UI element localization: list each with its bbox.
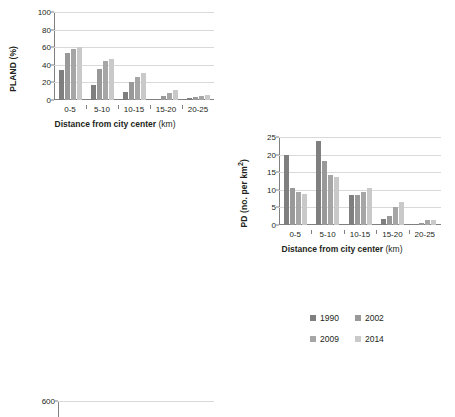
y-tick-label: 5 [272, 203, 279, 212]
x-tick-mark [150, 105, 151, 109]
bar-group [344, 137, 376, 225]
x-tick-mark [344, 230, 345, 234]
y-tick-label: 100 [38, 8, 54, 17]
bar [71, 49, 76, 100]
bar [103, 61, 108, 100]
bar [425, 220, 430, 225]
legend-label: 2002 [365, 313, 384, 323]
bar [205, 95, 210, 100]
bar [413, 224, 418, 225]
bar-group [54, 12, 86, 100]
bar [296, 192, 301, 225]
chart-enn-ylabel: ENN (mean) (m) [4, 395, 24, 417]
bar-group [182, 12, 214, 100]
bar [399, 202, 404, 225]
y-tick-label: 15 [267, 168, 279, 177]
bar [59, 70, 64, 100]
chart-enn-bars [58, 401, 214, 417]
bar [173, 90, 178, 100]
chart-enn: ENN (mean) (m) 0150300450600 0-55-1010-1… [4, 395, 226, 417]
chart-enn-plot-area: 0150300450600 [58, 401, 214, 417]
bar [187, 98, 192, 100]
bar [381, 219, 386, 225]
x-tick-mark [182, 105, 183, 109]
x-tick-mark [86, 105, 87, 109]
legend-swatch-icon [310, 315, 316, 321]
bar [161, 96, 166, 100]
bar-group [279, 137, 311, 225]
legend-item-2014: 2014 [355, 334, 384, 344]
bar [141, 73, 146, 100]
bar-group [311, 137, 343, 225]
bar-group [183, 401, 214, 417]
x-tick-label: 15-20 [150, 105, 182, 114]
bar-group [58, 401, 89, 417]
chart-pland-plot-area: 020406080100 [54, 12, 214, 100]
bar-group [118, 12, 150, 100]
x-tick-mark [118, 105, 119, 109]
bar [387, 216, 392, 225]
bar-group [120, 401, 151, 417]
x-tick-label: 20-25 [409, 230, 441, 239]
chart-pland-xlabel: Distance from city center (km) [4, 119, 226, 129]
figure-panel-grid: PLAND (%) 020406080100 0-55-1010-1515-20… [0, 0, 455, 417]
bar [97, 69, 102, 100]
x-tick-mark [409, 230, 410, 234]
chart-pd-bars [279, 137, 441, 225]
bar [393, 207, 398, 225]
x-tick-label: 20-25 [182, 105, 214, 114]
bar [284, 155, 289, 225]
x-tick-mark [311, 230, 312, 234]
legend-label: 2009 [320, 334, 339, 344]
bar [361, 192, 366, 225]
bar [129, 82, 134, 100]
bar [334, 177, 339, 225]
bar [328, 175, 333, 225]
chart-pd-xticklabels: 0-55-1010-1515-2020-25 [279, 230, 441, 239]
x-tick-label: 10-15 [344, 230, 376, 239]
bar [167, 93, 172, 100]
bar [155, 99, 160, 100]
chart-pd-ylabel-text: PD (no. per km2) [237, 159, 250, 227]
y-tick-label: 0 [272, 221, 279, 230]
bar-group [152, 401, 183, 417]
legend-swatch-icon [355, 336, 361, 342]
y-tick-label: 80 [42, 25, 54, 34]
bar-group [409, 137, 441, 225]
bar [135, 77, 140, 100]
x-tick-label: 5-10 [86, 105, 118, 114]
y-tick-label: 40 [42, 60, 54, 69]
legend: 1990200220092014 [310, 313, 384, 344]
bar [109, 59, 114, 100]
bar [367, 188, 372, 225]
bar [193, 97, 198, 100]
chart-pland: PLAND (%) 020406080100 0-55-1010-1515-20… [4, 6, 226, 131]
bar [431, 220, 436, 225]
chart-pd-xlabel: Distance from city center (km) [233, 244, 451, 254]
bar-group [86, 12, 118, 100]
y-tick-label: 600 [42, 397, 58, 406]
chart-pd-plot-area: 0510152025 [279, 137, 441, 225]
bar [322, 161, 327, 225]
bar [316, 141, 321, 225]
bar-group [150, 12, 182, 100]
bar [302, 194, 307, 225]
bar [123, 92, 128, 100]
legend-label: 1990 [320, 313, 339, 323]
chart-pland-ylabel: PLAND (%) [4, 6, 24, 131]
bar [419, 223, 424, 225]
x-tick-label: 15-20 [376, 230, 408, 239]
legend-item-2002: 2002 [355, 313, 384, 323]
y-tick-label: 60 [42, 43, 54, 52]
legend-item-1990: 1990 [310, 313, 339, 323]
bar [77, 47, 82, 100]
bar [65, 53, 70, 100]
x-tick-mark [376, 230, 377, 234]
y-tick-label: 25 [267, 133, 279, 142]
bar [355, 195, 360, 225]
legend-swatch-icon [355, 315, 361, 321]
x-tick-label: 10-15 [118, 105, 150, 114]
legend-swatch-icon [310, 336, 316, 342]
x-tick-label: 5-10 [311, 230, 343, 239]
chart-pd-ylabel: PD (no. per km2) [233, 131, 253, 256]
